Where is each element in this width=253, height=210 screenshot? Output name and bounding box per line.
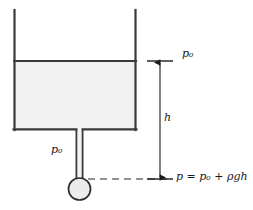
pressure-equation-label: p = p₀ + ρgh (176, 171, 248, 182)
tube-bulb (69, 178, 91, 200)
surface-pressure-label: p₀ (182, 48, 193, 59)
tube-pressure-label: p₀ (51, 144, 62, 155)
hydrostatic-pressure-figure: p₀ h p₀ p = p₀ + ρgh (0, 0, 253, 210)
fluid-body (15, 61, 135, 129)
depth-label: h (164, 112, 171, 123)
